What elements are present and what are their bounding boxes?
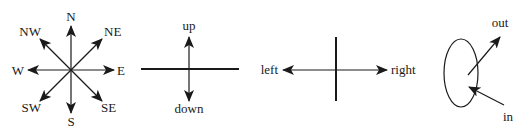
label-s: S — [67, 114, 74, 129]
label-se: SE — [101, 100, 116, 115]
label-sw: SW — [22, 100, 42, 115]
label-nw: NW — [19, 24, 41, 39]
plane-ellipse — [444, 39, 478, 107]
arrow-se-icon — [71, 70, 102, 101]
left-right-diagram: left right — [261, 37, 416, 101]
arrow-ne-icon — [71, 39, 102, 70]
label-left: left — [261, 62, 279, 77]
label-right: right — [391, 62, 416, 77]
compass-rose: N NE E SE S SW W NW — [12, 9, 125, 129]
label-in: in — [503, 109, 514, 124]
label-n: N — [66, 9, 76, 24]
in-out-diagram: out in — [444, 15, 514, 124]
label-up: up — [183, 18, 196, 33]
arrow-nw-icon — [40, 39, 71, 70]
arrow-in-icon — [469, 87, 504, 105]
label-down: down — [175, 101, 204, 116]
label-e: E — [117, 63, 125, 78]
label-out: out — [492, 15, 509, 30]
label-w: W — [12, 63, 25, 78]
direction-diagram: N NE E SE S SW W NW up down left right o… — [0, 0, 532, 130]
arrow-out-icon — [468, 37, 500, 75]
arrow-sw-icon — [40, 70, 71, 101]
up-down-diagram: up down — [141, 18, 239, 116]
label-ne: NE — [104, 24, 121, 39]
